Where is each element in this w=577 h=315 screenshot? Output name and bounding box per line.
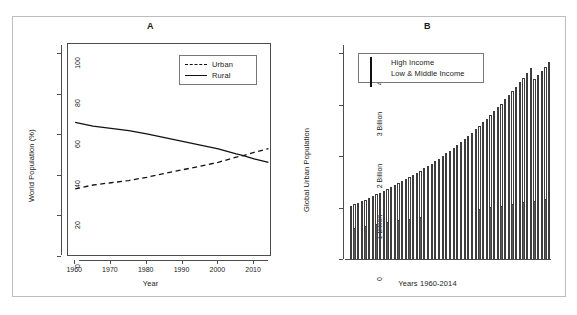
bar-segment-high-income — [375, 225, 377, 259]
panel-b: B Global Urban Population 01 Billion2 Bi… — [288, 17, 567, 298]
bar-segment-high-income — [438, 216, 440, 259]
bar-segment-low-middle-income — [427, 166, 429, 217]
filled-swatch-key — [364, 58, 386, 68]
bar-segment-low-middle-income — [368, 198, 370, 226]
bar-segment-low-middle-income — [489, 115, 491, 208]
bar-segment-high-income — [497, 207, 499, 259]
x-tick-label: 1960 — [66, 266, 82, 273]
page-header — [0, 0, 577, 12]
bar-segment-low-middle-income — [453, 148, 455, 214]
bar-segment-low-middle-income — [493, 111, 495, 207]
bar-segment-high-income — [419, 218, 421, 259]
bar-segment-low-middle-income — [375, 194, 377, 225]
bar-segment-low-middle-income — [379, 193, 381, 225]
bar-segment-low-middle-income — [353, 204, 355, 228]
bar-segment-high-income — [464, 212, 466, 259]
bar-segment-high-income — [548, 199, 550, 259]
bar-segment-high-income — [537, 201, 539, 259]
bar-segment-high-income — [364, 227, 366, 259]
bar-segment-low-middle-income — [456, 145, 458, 213]
y-tick-mark — [57, 256, 61, 257]
bar-segment-high-income — [442, 215, 444, 259]
bar-segment-high-income — [467, 212, 469, 259]
bar-segment-low-middle-income — [530, 68, 532, 202]
bar-segment-high-income — [386, 223, 388, 259]
bar-segment-low-middle-income — [442, 156, 444, 215]
x-tick-label: 2010 — [245, 266, 261, 273]
bar-segment-low-middle-income — [361, 201, 363, 227]
x-tick-label: 1970 — [102, 266, 118, 273]
bar-segment-high-income — [416, 219, 418, 259]
y-tick-mark — [57, 134, 61, 135]
y-tick-mark — [57, 215, 61, 216]
legend-label-high-income: High Income — [391, 58, 434, 67]
y-tick-mark — [57, 175, 61, 176]
bar-segment-high-income — [353, 229, 355, 259]
bar-segment-high-income — [482, 209, 484, 259]
bar-segment-high-income — [522, 203, 524, 259]
bar-segment-low-middle-income — [364, 200, 366, 227]
bar-segment-low-middle-income — [541, 71, 543, 201]
y-tick-mark — [57, 94, 61, 95]
bar-segment-high-income — [475, 211, 477, 260]
bar-segment-high-income — [526, 203, 528, 259]
empty-swatch-key — [364, 69, 386, 79]
bar-segment-high-income — [456, 213, 458, 259]
bar-segment-low-middle-income — [526, 73, 528, 203]
bar-segment-high-income — [401, 221, 403, 259]
panel-b-legend: High Income Low & Middle Income — [358, 53, 484, 83]
bar-segment-high-income — [361, 227, 363, 259]
bar-segment-high-income — [423, 218, 425, 259]
y-tick-mark — [339, 259, 343, 260]
legend-label-urban: Urban — [212, 60, 233, 69]
bar-segment-high-income — [530, 202, 532, 259]
y-tick-mark — [339, 105, 343, 106]
bar-segment-high-income — [394, 222, 396, 259]
bar-segment-high-income — [493, 208, 495, 259]
x-tick-mark — [110, 260, 111, 264]
bar-segment-high-income — [544, 200, 546, 259]
bar-segment-low-middle-income — [497, 107, 499, 207]
figure-frame: A World Population (%) 020406080100 1960… — [12, 16, 566, 297]
bar-segment-high-income — [533, 202, 535, 259]
panel-a-y-axis-label: World Population (%) — [27, 129, 36, 202]
x-tick-mark — [146, 260, 147, 264]
bar-segment-low-middle-income — [445, 153, 447, 214]
bar-segment-low-middle-income — [412, 175, 414, 219]
panel-a-legend: Urban Rural — [179, 55, 257, 85]
bar-segment-high-income — [508, 206, 510, 259]
bar-segment-high-income — [408, 220, 410, 259]
y-tick-mark — [57, 53, 61, 54]
dashed-line-key — [185, 60, 207, 70]
bar-segment-low-middle-income — [460, 142, 462, 213]
bar-segment-low-middle-income — [504, 99, 506, 206]
bar-segment-high-income — [431, 217, 433, 259]
bar-segment-high-income — [368, 226, 370, 259]
bar-segment-high-income — [519, 204, 521, 259]
legend-label-low-middle-income: Low & Middle Income — [391, 69, 465, 78]
bar-segment-low-middle-income — [537, 75, 539, 201]
panel-b-x-axis-label: Years 1960-2014 — [288, 279, 567, 288]
legend-label-rural: Rural — [212, 71, 230, 80]
panel-a-title: A — [13, 21, 288, 31]
bar-segment-high-income — [405, 220, 407, 259]
bar-segment-low-middle-income — [390, 187, 392, 222]
legend-entry-rural: Rural — [185, 70, 251, 81]
bar-segment-low-middle-income — [419, 171, 421, 219]
bar-segment-low-middle-income — [449, 151, 451, 215]
bar-segment-high-income — [397, 221, 399, 259]
bar-segment-low-middle-income — [486, 119, 488, 209]
bar-segment-low-middle-income — [357, 203, 359, 228]
bar-segment-high-income — [445, 215, 447, 259]
bar-segment-low-middle-income — [431, 164, 433, 217]
bar-segment-high-income — [511, 205, 513, 259]
x-tick-label: 2000 — [210, 266, 226, 273]
solid-line-key — [185, 71, 207, 81]
bar-segment-low-middle-income — [500, 104, 502, 207]
bar-segment-low-middle-income — [475, 129, 477, 210]
legend-entry-urban: Urban — [185, 59, 251, 70]
bar-segment-low-middle-income — [350, 206, 352, 230]
bar-segment-high-income — [486, 209, 488, 259]
bar-segment-low-middle-income — [482, 122, 484, 209]
bar-segment-high-income — [453, 214, 455, 259]
